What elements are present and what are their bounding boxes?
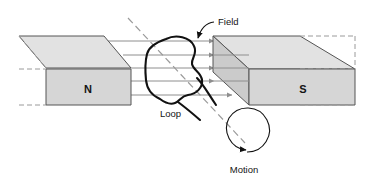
- loop-lead-wire-left: [178, 102, 200, 120]
- magnet-north: N: [19, 36, 131, 105]
- magnet-south: S: [213, 36, 355, 105]
- wire-loop: [145, 37, 202, 104]
- field-label-group: Field: [198, 16, 239, 38]
- field-leader-line: [198, 22, 214, 38]
- diagram-canvas: N S: [0, 0, 374, 179]
- motion-indicator-group: Motion: [227, 108, 270, 175]
- loop-label: Loop: [160, 108, 181, 119]
- south-pole-label: S: [299, 83, 306, 95]
- electromagnetic-induction-diagram: N S: [0, 0, 374, 179]
- loop-lead-wire-right: [197, 78, 216, 105]
- field-label: Field: [218, 16, 239, 27]
- motion-label: Motion: [230, 164, 259, 175]
- motion-circular-arrow: [227, 108, 270, 152]
- north-pole-label: N: [84, 83, 92, 95]
